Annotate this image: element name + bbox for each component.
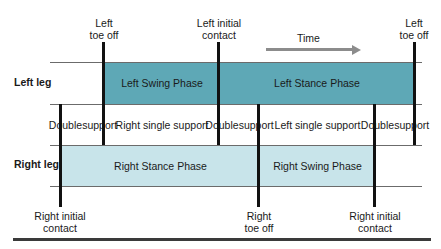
event-right-initial-contact-2: Right initial contact	[345, 210, 405, 234]
time-arrow-icon	[352, 45, 361, 55]
event-right-initial-contact-1: Right initial contact	[30, 210, 90, 234]
row-divider-bottom	[50, 186, 422, 187]
event-label-line: toe off	[398, 29, 430, 41]
event-label-line: Left initial	[193, 17, 245, 29]
event-right-toe-off: Right toe off	[243, 210, 275, 234]
event-label-line: Right initial	[345, 210, 405, 222]
event-left-initial-contact: Left initial contact	[193, 17, 245, 41]
event-label-line: Left	[88, 17, 120, 29]
event-label-line: Right initial	[30, 210, 90, 222]
left-swing-phase: Left Swing Phase	[106, 62, 218, 104]
event-line-left-initial-contact	[217, 42, 220, 145]
event-label-line: toe off	[88, 29, 120, 41]
right-swing-phase: Right Swing Phase	[261, 145, 374, 186]
event-label-line: Left	[398, 17, 430, 29]
event-label-line: contact	[345, 222, 405, 234]
left-single-support: Left single support	[261, 105, 374, 145]
time-arrow-shaft	[266, 48, 354, 51]
event-line-right-toe-off	[257, 104, 260, 207]
right-single-support: Right single support	[106, 105, 218, 145]
event-line-left-toe-off-2	[413, 42, 416, 145]
right-leg-label: Right leg	[14, 158, 59, 170]
event-label-line: contact	[30, 222, 90, 234]
event-left-toe-off-1: Left toe off	[88, 17, 120, 41]
right-stance-phase: Right Stance Phase	[63, 145, 258, 186]
event-line-right-initial-contact-2	[373, 104, 376, 207]
footer-rule	[13, 238, 431, 241]
event-line-right-initial-contact-1	[59, 104, 62, 207]
event-line-left-toe-off-1	[102, 42, 105, 145]
double-support-3: Doublesupport	[377, 105, 413, 145]
time-label: Time	[297, 32, 320, 44]
left-stance-phase: Left Stance Phase	[221, 62, 413, 104]
left-leg-label: Left leg	[14, 76, 51, 88]
event-left-toe-off-2: Left toe off	[398, 17, 430, 41]
row-divider-lower	[50, 145, 422, 146]
row-divider-top	[50, 62, 422, 63]
event-label-line: contact	[193, 29, 245, 41]
double-support-1: Doublesupport	[63, 105, 103, 145]
double-support-2: Doublesupport	[221, 105, 258, 145]
event-label-line: toe off	[243, 222, 275, 234]
event-label-line: Right	[243, 210, 275, 222]
